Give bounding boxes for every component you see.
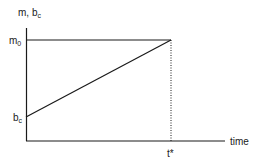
y-axis-label: m, bc xyxy=(18,7,41,19)
bc-growth-line xyxy=(26,40,171,117)
m0-label: m0 xyxy=(9,35,21,47)
diagram-canvas: m, bc m0 bc t* time xyxy=(0,0,259,164)
bc-label: bc xyxy=(13,112,23,124)
tstar-label: t* xyxy=(167,148,174,159)
x-axis-label: time xyxy=(230,136,249,147)
